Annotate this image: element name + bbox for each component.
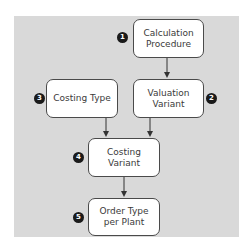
node-costing-variant: Costing Variant: [88, 138, 160, 177]
node-label: Valuation Variant: [148, 88, 190, 110]
step-1-badge-icon: 1: [117, 32, 128, 43]
step-3-badge-icon: 3: [34, 93, 45, 104]
node-calculation-procedure: Calculation Procedure: [133, 19, 204, 58]
node-costing-type: Costing Type: [46, 79, 118, 118]
node-valuation-variant: Valuation Variant: [133, 79, 204, 118]
step-2-badge-icon: 2: [206, 93, 217, 104]
node-order-type-per-plant: Order Type per Plant: [88, 198, 160, 236]
node-label: Order Type per Plant: [99, 206, 148, 228]
step-4-badge-icon: 4: [73, 152, 84, 163]
node-label: Calculation Procedure: [143, 28, 193, 50]
node-label: Costing Variant: [107, 147, 141, 169]
node-label: Costing Type: [53, 93, 110, 104]
step-5-badge-icon: 5: [73, 212, 84, 223]
